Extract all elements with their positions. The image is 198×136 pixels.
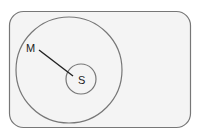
set-m-label: M <box>26 42 35 54</box>
euler-diagram: M S <box>0 0 198 136</box>
universe-rectangle <box>10 12 191 128</box>
set-s-label: S <box>78 74 85 86</box>
